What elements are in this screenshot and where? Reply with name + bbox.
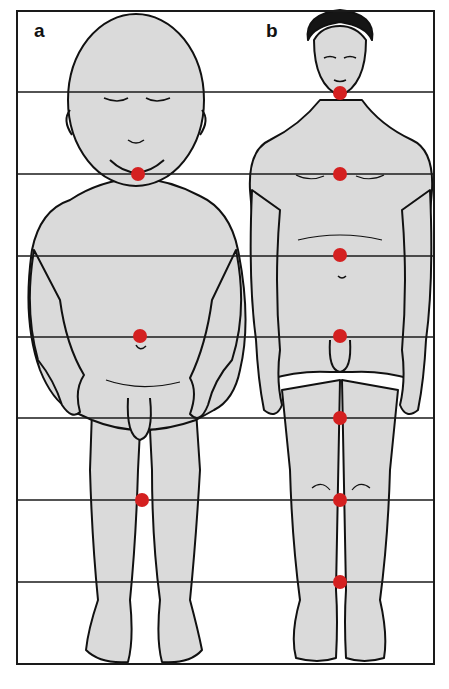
midpoint-marker [333, 167, 347, 181]
midpoint-marker [131, 167, 145, 181]
midpoint-marker [333, 493, 347, 507]
body-proportion-diagram: a b [0, 0, 449, 689]
panel-label-a: a [34, 20, 45, 42]
midpoint-marker [333, 411, 347, 425]
midpoint-marker [333, 575, 347, 589]
panel-label-b: b [266, 20, 278, 42]
midpoint-marker [333, 248, 347, 262]
diagram-canvas [0, 0, 449, 689]
midpoint-marker [135, 493, 149, 507]
midpoint-marker [133, 329, 147, 343]
midpoint-marker [333, 86, 347, 100]
midpoint-marker [333, 329, 347, 343]
